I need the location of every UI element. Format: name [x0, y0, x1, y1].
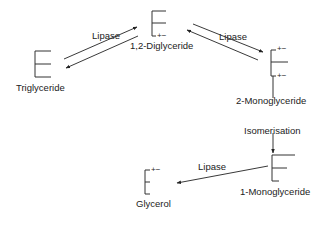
edge-label-isomerisation: Isomerisation: [244, 126, 301, 136]
edge-label-lipase: Lipase: [219, 32, 247, 42]
charge-marker: +−: [277, 45, 286, 53]
edge-label-lipase: Lipase: [198, 162, 226, 172]
charge-marker: +−: [157, 32, 166, 40]
triglyceride-structure-icon: [35, 51, 51, 77]
monoglyceride1-structure-icon: [272, 155, 295, 181]
glycerol-structure-icon: [145, 170, 150, 194]
node-label-glycerol: Glycerol: [136, 199, 171, 209]
charge-marker: +−: [151, 166, 160, 174]
charge-marker: +−: [277, 72, 286, 80]
node-label-triglyceride: Triglyceride: [16, 83, 65, 93]
node-label-diglyceride: 1,2-Diglyceride: [130, 41, 193, 51]
node-label-1-monoglyceride: 1-Monoglyceride: [240, 187, 310, 197]
edge-label-lipase: Lipase: [92, 31, 120, 41]
node-label-2-monoglyceride: 2-Monoglyceride: [236, 96, 306, 106]
